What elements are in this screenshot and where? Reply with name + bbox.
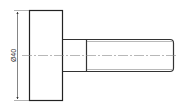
dimension-label-head-diameter: Ø40	[10, 49, 17, 62]
technical-drawing: Ø40	[0, 0, 190, 111]
